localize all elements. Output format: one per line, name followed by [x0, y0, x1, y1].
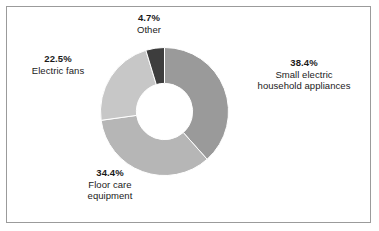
callout-floor-label-line1: Floor care — [54, 179, 166, 191]
donut-chart-svg — [100, 47, 229, 176]
callout-other: 4.7% Other — [106, 12, 192, 35]
callout-appliances-percent: 38.4% — [236, 57, 372, 69]
chart-figure: 4.7% Other 38.4% Small electric househol… — [0, 0, 379, 231]
donut-slice — [101, 50, 157, 120]
callout-fans-percent: 22.5% — [12, 53, 104, 65]
callout-appliances-label-line2: household appliances — [236, 80, 372, 92]
callout-floor-percent: 34.4% — [54, 167, 166, 179]
donut-slice-group — [101, 48, 229, 176]
callout-appliances-label-line1: Small electric — [236, 69, 372, 81]
callout-electric-fans: 22.5% Electric fans — [12, 53, 104, 76]
callout-floor-care-equipment: 34.4% Floor care equipment — [54, 167, 166, 202]
callout-other-percent: 4.7% — [106, 12, 192, 24]
callout-fans-label-line1: Electric fans — [12, 65, 104, 77]
callout-other-label-line1: Other — [106, 24, 192, 36]
donut-chart — [100, 47, 229, 176]
callout-small-electric-household-appliances: 38.4% Small electric household appliance… — [236, 57, 372, 92]
callout-floor-label-line2: equipment — [54, 190, 166, 202]
